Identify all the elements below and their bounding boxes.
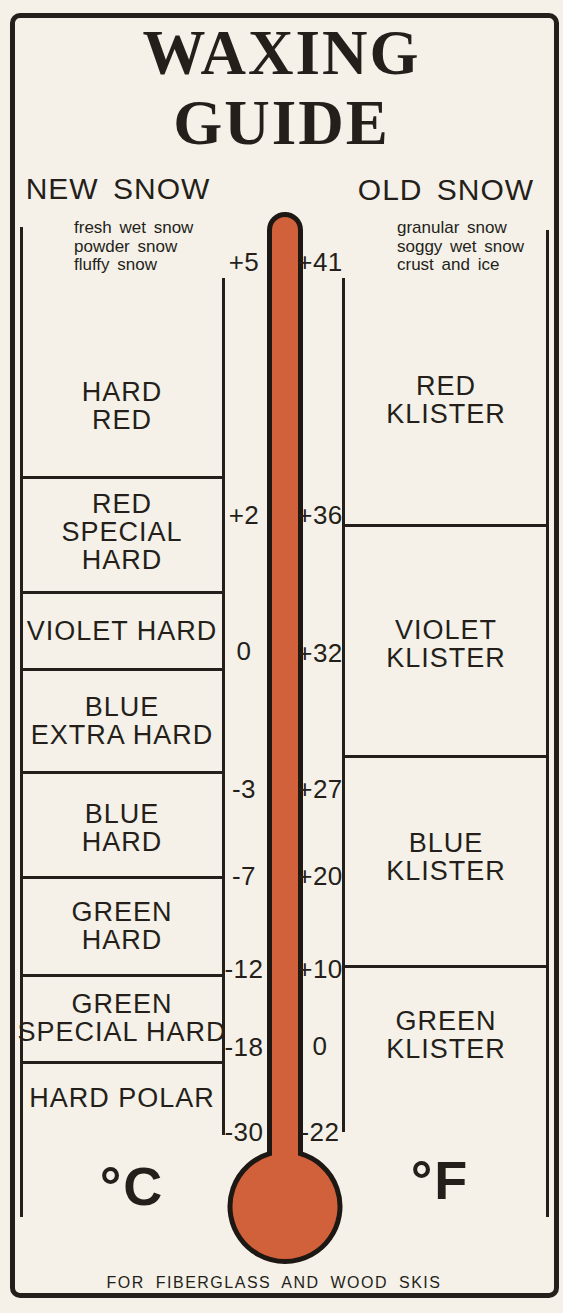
wax-label-line: EXTRA HARD [31,721,214,749]
new-snow-range-separator [20,876,225,879]
fahrenheit-scale-value: +20 [297,861,343,892]
new-snow-range-separator [20,591,225,594]
celsius-scale-value: 0 [237,636,252,667]
old-snow-range-separator [342,755,549,758]
wax-label-line: HARD [71,926,172,954]
wax-label-green-hard: GREENHARD [71,898,172,954]
waxing-guide-poster: WAXING GUIDE NEW SNOW OLD SNOW fresh wet… [0,0,563,1313]
wax-label-line: RED [82,406,163,434]
fahrenheit-scale-value: +27 [297,774,343,805]
wax-label-line: BLUE [82,800,163,828]
wax-label-line: HARD [61,546,182,574]
wax-label-violet-hard: VIOLET HARD [27,617,218,645]
fahrenheit-scale-value: +10 [297,954,343,985]
celsius-scale-value: -18 [224,1032,263,1063]
wax-label-line: KLISTER [386,1035,506,1063]
celsius-scale-value: -3 [232,774,256,805]
wax-label-hard-polar: HARD POLAR [29,1084,215,1112]
wax-label-line: VIOLET [386,616,506,644]
celsius-scale-value: +5 [229,247,260,278]
celsius-scale-value: -30 [224,1117,263,1148]
wax-label-line: BLUE [31,693,214,721]
thermometer-body [230,214,340,1261]
wax-label-line: KLISTER [386,400,506,428]
wax-label-line: KLISTER [386,644,506,672]
wax-label-line: KLISTER [386,857,506,885]
wax-label-red-klister: REDKLISTER [386,372,506,428]
new-snow-range-separator [20,476,225,479]
footer-note: FOR FIBERGLASS AND WOOD SKIS [0,1274,548,1292]
wax-label-hard-red: HARDRED [82,378,163,434]
wax-label-line: SPECIAL HARD [17,1018,226,1046]
old-snow-range-separator [342,965,549,968]
fahrenheit-scale-value: -22 [300,1117,339,1148]
new-snow-range-separator [20,974,225,977]
wax-label-red-special-hard: REDSPECIALHARD [61,490,182,574]
new-snow-range-separator [20,1061,225,1064]
old-snow-range-separator [342,524,549,527]
celsius-scale-value: -7 [232,861,256,892]
celsius-scale-value: +2 [229,500,260,531]
wax-label-blue-klister: BLUEKLISTER [386,829,506,885]
wax-label-line: GREEN [71,898,172,926]
wax-label-line: BLUE [386,829,506,857]
wax-label-line: HARD POLAR [29,1084,215,1112]
wax-label-line: SPECIAL [61,518,182,546]
wax-label-line: HARD [82,378,163,406]
wax-label-line: RED [386,372,506,400]
fahrenheit-scale-value: +32 [297,638,343,669]
wax-label-line: HARD [82,828,163,856]
wax-label-line: GREEN [17,990,226,1018]
wax-label-line: GREEN [386,1007,506,1035]
wax-label-blue-extra-hard: BLUEEXTRA HARD [31,693,214,749]
wax-label-line: VIOLET HARD [27,617,218,645]
celsius-scale-value: -12 [224,954,263,985]
fahrenheit-scale-value: +36 [297,500,343,531]
wax-label-green-special-hard: GREENSPECIAL HARD [17,990,226,1046]
new-snow-range-separator [20,771,225,774]
wax-label-line: RED [61,490,182,518]
new-snow-range-separator [20,668,225,671]
wax-label-violet-klister: VIOLETKLISTER [386,616,506,672]
fahrenheit-scale-value: +41 [297,247,343,278]
celsius-unit-label: °C [100,1155,165,1217]
fahrenheit-unit-label: °F [411,1149,470,1211]
wax-label-blue-hard: BLUEHARD [82,800,163,856]
wax-label-green-klister: GREENKLISTER [386,1007,506,1063]
fahrenheit-scale-value: 0 [313,1031,328,1062]
